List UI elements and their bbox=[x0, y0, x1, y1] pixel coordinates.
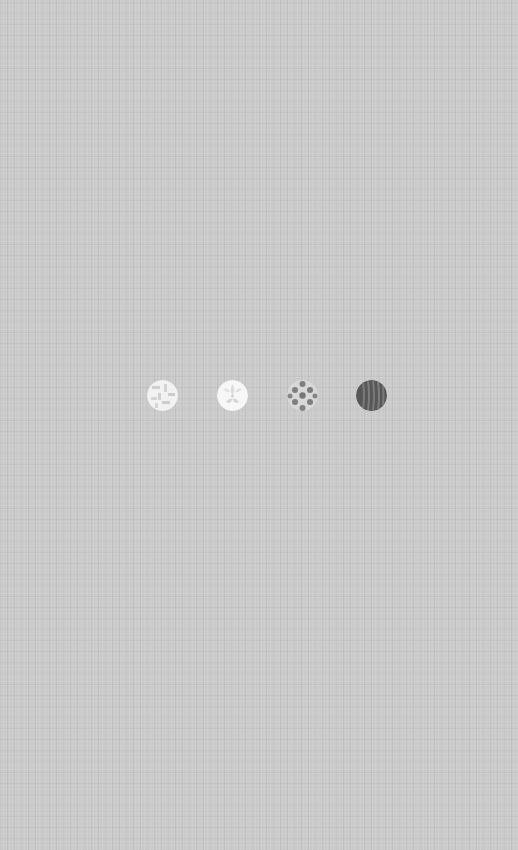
light-geometric-pattern-icon bbox=[147, 380, 178, 411]
dark-stripe-pattern-icon bbox=[356, 380, 387, 411]
textured-background bbox=[0, 0, 518, 850]
gray-scale-pattern-icon bbox=[287, 380, 318, 411]
swatch-gray-scale[interactable] bbox=[287, 380, 318, 411]
pattern-swatch-row bbox=[0, 380, 518, 412]
swatch-white-floral[interactable] bbox=[217, 380, 248, 411]
white-floral-pattern-icon bbox=[217, 380, 248, 411]
swatch-dark-stripe[interactable] bbox=[356, 380, 387, 411]
swatch-light-geometric[interactable] bbox=[147, 380, 178, 411]
